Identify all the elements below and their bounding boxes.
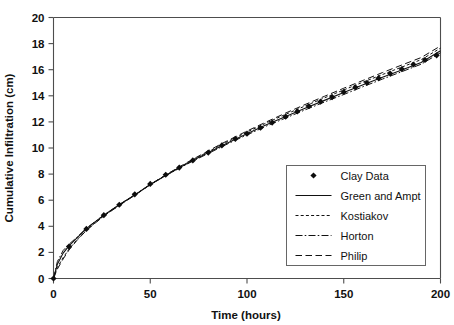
chart-figure: 02468101214161820 050100150200 Time (hou…	[0, 0, 454, 325]
y-axis-title: Cumulative Infiltration (cm)	[3, 73, 15, 222]
legend-label: Philip	[341, 250, 368, 262]
chart-legend: Clay DataGreen and AmptKostiakovHortonPh…	[287, 166, 426, 266]
y-tick-label: 16	[32, 64, 45, 76]
y-tick-label: 10	[32, 142, 45, 154]
y-tick-label: 8	[38, 168, 45, 180]
x-axis-title: Time (hours)	[211, 309, 281, 321]
y-tick-label: 14	[32, 90, 45, 102]
y-tick-label: 20	[32, 12, 45, 24]
legend-label: Green and Ampt	[341, 190, 421, 202]
y-tick-label: 0	[38, 273, 44, 285]
y-tick-label: 18	[32, 38, 45, 50]
x-tick-label: 100	[237, 288, 256, 300]
x-tick-label: 200	[431, 288, 450, 300]
legend-label: Horton	[341, 230, 374, 242]
y-tick-label: 6	[38, 194, 44, 206]
y-tick-label: 2	[38, 246, 44, 258]
y-tick-label: 12	[32, 116, 45, 128]
x-tick-label: 150	[334, 288, 353, 300]
x-tick-label: 50	[144, 288, 157, 300]
cumulative-infiltration-chart: 02468101214161820 050100150200 Time (hou…	[0, 0, 454, 325]
chart-background	[0, 0, 454, 325]
y-tick-label: 4	[38, 220, 45, 232]
x-tick-label: 0	[50, 288, 56, 300]
legend-label: Clay Data	[341, 170, 390, 182]
legend-label: Kostiakov	[341, 210, 389, 222]
